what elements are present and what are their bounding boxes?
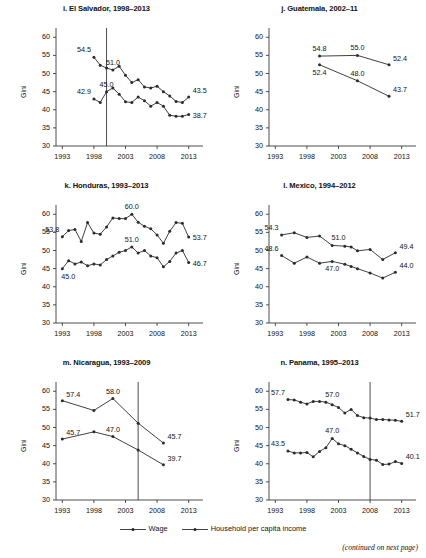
data-label-k-3: 45.0 xyxy=(61,272,75,281)
data-point-n-wage-2010 xyxy=(381,463,384,466)
chart-panel-l: l. Mexico, 1994–2012Gini3035404550556019… xyxy=(221,181,418,353)
legend-marker-household xyxy=(182,525,208,534)
data-point-m-wage-2009 xyxy=(162,463,165,466)
data-point-j-wage-2000 xyxy=(318,63,321,66)
data-label-i-5: 38.7 xyxy=(193,111,207,120)
data-point-i-household-1998 xyxy=(92,56,95,59)
data-point-i-wage-2007 xyxy=(149,105,152,108)
data-label-k-1: 60.0 xyxy=(125,202,139,211)
data-point-k-household-2007 xyxy=(149,227,152,230)
data-point-m-household-2005 xyxy=(137,422,140,425)
data-point-k-wage-2008 xyxy=(156,256,159,259)
plot-area-k: 53.860.053.745.051.046.7 xyxy=(8,181,205,353)
data-point-l-wage-1994 xyxy=(280,254,283,257)
data-point-n-household-2003 xyxy=(337,406,340,409)
data-point-k-household-2010 xyxy=(168,230,171,233)
series-line-n-household xyxy=(288,400,402,422)
data-label-l-2: 49.4 xyxy=(399,242,413,251)
data-point-n-household-2000 xyxy=(318,400,321,403)
data-label-m-1: 58.0 xyxy=(106,387,120,396)
data-point-n-wage-2007 xyxy=(362,455,365,458)
legend-marker-wage xyxy=(120,525,146,534)
data-point-i-household-2006 xyxy=(143,85,146,88)
data-label-n-1: 57.0 xyxy=(325,390,339,399)
data-point-i-household-2010 xyxy=(168,94,171,97)
data-point-k-household-1995 xyxy=(73,228,76,231)
data-point-k-wage-2001 xyxy=(111,254,114,257)
data-point-i-wage-2002 xyxy=(118,93,121,96)
data-point-k-wage-2005 xyxy=(137,252,140,255)
data-label-l-3: 48.6 xyxy=(265,244,279,253)
data-point-i-household-2008 xyxy=(156,85,159,88)
data-point-i-wage-2006 xyxy=(143,99,146,102)
data-point-l-household-2010 xyxy=(381,258,384,261)
data-point-k-wage-2003 xyxy=(124,249,127,252)
data-point-l-wage-2000 xyxy=(318,262,321,265)
data-label-l-0: 54.3 xyxy=(265,223,279,232)
data-point-i-wage-1999 xyxy=(99,101,102,104)
data-point-i-household-2003 xyxy=(124,74,127,77)
data-point-k-household-1993 xyxy=(61,235,64,238)
chart-panel-m: m. Nicaragua, 1993–2009Gini3035404550556… xyxy=(8,358,205,530)
data-point-n-household-2013 xyxy=(400,420,403,423)
data-label-k-4: 51.0 xyxy=(125,235,139,244)
data-label-j-5: 43.7 xyxy=(393,85,407,94)
data-point-k-household-2003 xyxy=(124,217,127,220)
data-point-k-wage-2004 xyxy=(130,245,133,248)
data-point-n-wage-1998 xyxy=(305,451,308,454)
data-point-n-wage-1996 xyxy=(293,451,296,454)
data-point-k-household-2000 xyxy=(105,225,108,228)
data-point-n-household-2005 xyxy=(350,408,353,411)
data-point-i-household-2000 xyxy=(105,67,108,70)
data-point-n-wage-2005 xyxy=(350,448,353,451)
data-label-m-0: 57.4 xyxy=(66,390,80,399)
data-label-i-1: 51.0 xyxy=(106,58,120,67)
figure-legend: WageHousehold per capita income xyxy=(0,524,426,534)
data-point-n-household-2009 xyxy=(375,418,378,421)
data-point-n-wage-1999 xyxy=(312,455,315,458)
data-point-m-household-1998 xyxy=(92,409,95,412)
data-point-n-household-2012 xyxy=(394,419,397,422)
data-point-l-wage-2012 xyxy=(394,271,397,274)
figure-footer-note: (continued on next page) xyxy=(342,543,418,552)
data-point-k-household-2002 xyxy=(118,217,121,220)
data-point-k-wage-1998 xyxy=(92,262,95,265)
data-point-i-wage-2004 xyxy=(130,101,133,104)
data-label-j-2: 52.4 xyxy=(393,54,407,63)
series-line-i-wage xyxy=(94,88,189,116)
data-point-k-wage-1995 xyxy=(73,262,76,265)
data-point-n-wage-2009 xyxy=(375,459,378,462)
data-point-i-household-2001 xyxy=(111,68,114,71)
data-point-n-wage-2002 xyxy=(331,437,334,440)
legend-item-household: Household per capita income xyxy=(182,524,307,534)
data-point-i-household-2004 xyxy=(130,81,133,84)
data-point-k-wage-2010 xyxy=(168,260,171,263)
data-point-k-household-2012 xyxy=(181,222,184,225)
data-point-k-wage-2011 xyxy=(175,252,178,255)
data-point-k-household-2013 xyxy=(187,236,190,239)
data-point-n-household-1995 xyxy=(286,398,289,401)
data-label-j-4: 48.0 xyxy=(351,69,365,78)
plot-area-i: 54.551.043.542.945.038.7 xyxy=(8,4,205,176)
series-line-j-household xyxy=(320,55,390,64)
data-point-k-household-1997 xyxy=(86,221,89,224)
data-point-i-wage-1998 xyxy=(92,97,95,100)
data-point-i-wage-2010 xyxy=(168,114,171,117)
data-point-j-wage-2006 xyxy=(356,79,359,82)
data-point-k-household-2011 xyxy=(175,221,178,224)
data-point-n-household-1998 xyxy=(305,402,308,405)
data-point-k-household-1999 xyxy=(99,233,102,236)
data-point-n-household-1997 xyxy=(299,401,302,404)
data-label-i-0: 54.5 xyxy=(77,45,91,54)
data-label-m-2: 45.7 xyxy=(167,432,181,441)
data-point-n-wage-2001 xyxy=(324,446,327,449)
data-point-i-wage-2000 xyxy=(105,90,108,93)
plot-area-n: 57.757.051.743.547.040.1 xyxy=(221,358,418,530)
data-label-j-3: 52.4 xyxy=(313,68,327,77)
data-point-n-wage-2006 xyxy=(356,451,359,454)
data-point-k-wage-2002 xyxy=(118,251,121,254)
data-point-i-wage-2013 xyxy=(187,113,190,116)
data-point-n-wage-1997 xyxy=(299,451,302,454)
data-point-i-household-1999 xyxy=(99,64,102,67)
data-point-l-wage-2010 xyxy=(381,277,384,280)
